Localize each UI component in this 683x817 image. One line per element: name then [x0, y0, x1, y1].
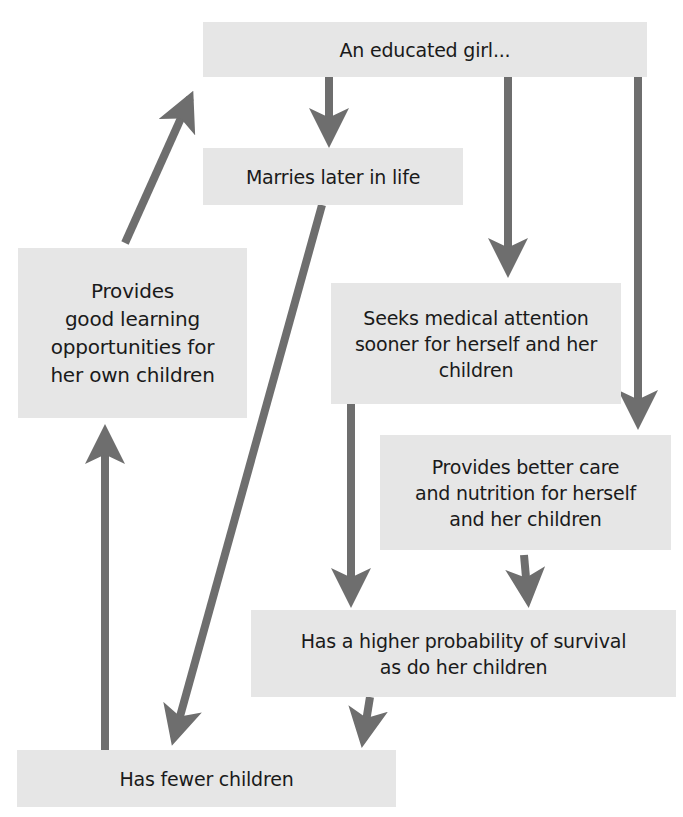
node-label: Provides good learning opportunities for…	[50, 277, 214, 389]
node-label: Seeks medical attention sooner for herse…	[355, 305, 597, 383]
node-fewer-children: Has fewer children	[17, 750, 396, 807]
node-educated-girl: An educated girl...	[203, 22, 647, 77]
node-care: Provides better care and nutrition for h…	[380, 435, 671, 550]
node-label: Has fewer children	[120, 766, 294, 792]
node-learning: Provides good learning opportunities for…	[18, 248, 247, 418]
node-label: Marries later in life	[246, 164, 420, 190]
arrow-care-to-survival	[524, 555, 528, 600]
node-survival: Has a higher probability of survival as …	[251, 610, 676, 697]
node-label: Has a higher probability of survival as …	[301, 628, 627, 680]
node-label: Provides better care and nutrition for h…	[415, 454, 636, 532]
node-label: An educated girl...	[340, 37, 511, 63]
node-medical: Seeks medical attention sooner for herse…	[331, 283, 621, 404]
node-marries-later: Marries later in life	[203, 148, 463, 205]
arrow-survival-to-fewer	[363, 697, 370, 740]
arrow-learning-to-girl	[125, 98, 190, 243]
